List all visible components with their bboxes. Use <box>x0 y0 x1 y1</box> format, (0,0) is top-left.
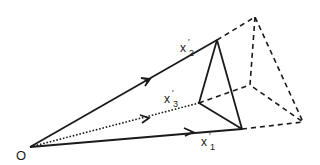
svg-text:x: x <box>201 135 207 149</box>
svg-text:′: ′ <box>172 88 174 98</box>
svg-text:x: x <box>164 92 170 106</box>
svg-text:′: ′ <box>188 37 190 47</box>
svg-text:x: x <box>180 41 186 55</box>
label-x2: x ′ 2 <box>180 37 194 58</box>
label-x1: x ′ 1 <box>201 131 215 152</box>
svg-text:2: 2 <box>189 48 194 58</box>
svg-text:1: 1 <box>210 142 215 152</box>
vector-diagram: O x ′ 2 x ′ 3 x ′ 1 <box>0 0 320 165</box>
origin-label: O <box>16 148 26 163</box>
arrowhead-icon <box>140 115 149 123</box>
label-x3: x ′ 3 <box>164 88 178 109</box>
outer-triangle <box>250 17 303 122</box>
svg-text:3: 3 <box>173 99 178 109</box>
arrowhead-icon <box>184 128 193 136</box>
inner-triangle <box>199 40 242 129</box>
